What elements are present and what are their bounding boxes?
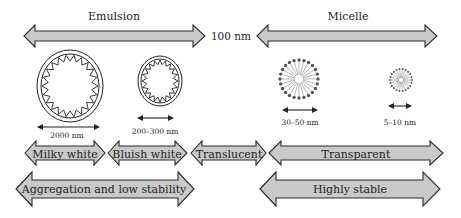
stability-arrow-low: Aggregation and low stability bbox=[16, 172, 194, 206]
size-label-2000nm: 2000 nm bbox=[50, 131, 83, 140]
stability-arrow-high: Highly stable bbox=[260, 172, 440, 206]
svg-text:Bluish white: Bluish white bbox=[112, 148, 181, 161]
emulsion-micelle-diagram: Emulsion 100 nm Micelle 2000 nm 200–300 … bbox=[0, 0, 461, 218]
dimension-arrow-2000nm bbox=[37, 124, 100, 130]
large-emulsion-droplet-icon bbox=[37, 50, 103, 122]
appearance-arrow-milky-white: Milky white bbox=[25, 141, 105, 165]
svg-text:Aggregation and low stability: Aggregation and low stability bbox=[21, 183, 187, 196]
size-boundary-label: 100 nm bbox=[211, 30, 251, 42]
size-label-5-10nm: 5–10 nm bbox=[384, 118, 416, 127]
appearance-arrow-translucent: Translucent bbox=[191, 141, 266, 165]
emulsion-label: Emulsion bbox=[88, 10, 140, 23]
small-micelle-icon bbox=[389, 68, 413, 92]
appearance-arrow-bluish-white: Bluish white bbox=[108, 141, 187, 165]
micelle-range-arrow bbox=[257, 25, 437, 47]
svg-text:Highly stable: Highly stable bbox=[313, 183, 387, 196]
dimension-arrow-5-10nm bbox=[388, 103, 412, 109]
large-micelle-icon bbox=[278, 58, 319, 99]
appearance-arrow-transparent: Transparent bbox=[269, 141, 443, 165]
size-label-200-300nm: 200–300 nm bbox=[132, 127, 179, 136]
size-label-30-50nm: 30–50 nm bbox=[281, 118, 318, 127]
emulsion-range-arrow bbox=[24, 25, 205, 47]
svg-text:Milky white: Milky white bbox=[32, 148, 98, 161]
small-emulsion-droplet-icon bbox=[138, 56, 182, 106]
dimension-arrow-30-50nm bbox=[282, 107, 318, 113]
svg-text:Transparent: Transparent bbox=[322, 148, 391, 161]
micelle-label: Micelle bbox=[328, 10, 369, 23]
svg-text:Translucent: Translucent bbox=[196, 148, 263, 161]
dimension-arrow-200-300nm bbox=[137, 115, 174, 121]
